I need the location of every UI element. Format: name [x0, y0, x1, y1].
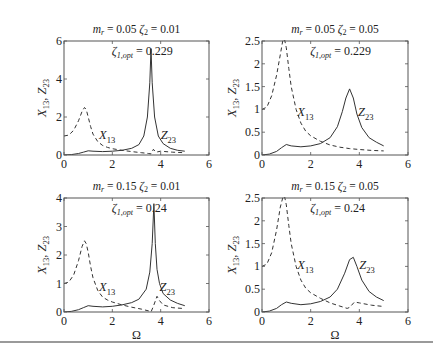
series-x13-line: [64, 241, 185, 312]
y-tick-label: 4: [56, 72, 62, 86]
x-tick-label: 2: [109, 157, 115, 171]
x-tick-label: 6: [206, 314, 212, 328]
subplot-title: mr = 0.15 ζ2 = 0.05: [291, 180, 379, 194]
y-tick-label: 0: [56, 148, 62, 162]
zeta-opt-annotation: ζ1,opt = 0.229: [310, 44, 371, 60]
zeta-opt-annotation: ζ1,opt = 0.24: [112, 201, 167, 217]
y-tick-label: 2.5: [245, 34, 260, 48]
y-tick-label: 0.5: [245, 282, 260, 296]
x13-curve-label: X13: [98, 128, 115, 145]
figure: mr = 0.05 ζ2 = 0.0102460246X13, Z23ζ1,op…: [0, 0, 433, 352]
y-tick-label: 1.5: [245, 80, 260, 94]
axes-frame: [262, 198, 408, 312]
x-tick-label: 4: [158, 314, 164, 328]
x-tick-label: 2: [109, 314, 115, 328]
y-tick-label: 0: [254, 305, 260, 319]
y-axis-label: X13, Z23: [225, 236, 241, 275]
y-tick-label: 3: [56, 220, 62, 234]
y-axis-label: X13, Z23: [35, 79, 51, 118]
x-tick-label: 2: [308, 157, 314, 171]
x-tick-label: 6: [405, 157, 411, 171]
y-tick-label: 1.5: [245, 237, 260, 251]
y-tick-label: 2: [56, 110, 62, 124]
zeta-opt-annotation: ζ1,opt = 0.229: [112, 44, 173, 60]
y-tick-label: 0: [56, 305, 62, 319]
subplot-4: mr = 0.15 ζ2 = 0.05024600.511.522.5X13, …: [225, 180, 411, 342]
y-tick-label: 2: [254, 57, 260, 71]
y-tick-label: 1: [254, 102, 260, 116]
x-tick-label: 6: [206, 157, 212, 171]
zeta-opt-annotation: ζ1,opt = 0.24: [310, 201, 365, 217]
subplot-title: mr = 0.05 ζ2 = 0.01: [93, 23, 181, 37]
y-tick-label: 1: [254, 259, 260, 273]
x13-curve-label: X13: [296, 258, 313, 275]
x-axis-label: Ω: [132, 328, 141, 342]
x-axis-label: Ω: [331, 328, 340, 342]
y-axis-label: X13, Z23: [35, 236, 51, 275]
x13-curve-label: X13: [296, 105, 313, 122]
y-tick-label: 1: [56, 277, 62, 291]
x-tick-label: 2: [308, 314, 314, 328]
y-tick-label: 0: [254, 148, 260, 162]
axes-frame: [64, 198, 209, 312]
subplot-title: mr = 0.05 ζ2 = 0.05: [291, 23, 379, 37]
axes-frame: [262, 41, 408, 155]
divider: [0, 341, 433, 343]
z23-curve-label: Z23: [359, 258, 374, 275]
x-tick-label: 4: [158, 157, 164, 171]
subplot-title: mr = 0.15 ζ2 = 0.01: [93, 180, 181, 194]
y-tick-label: 2: [56, 248, 62, 262]
z23-curve-label: Z23: [161, 128, 176, 145]
y-axis-label: X13, Z23: [225, 79, 241, 118]
subplot-1: mr = 0.05 ζ2 = 0.0102460246X13, Z23ζ1,op…: [35, 23, 212, 171]
z23-curve-label: Z23: [159, 280, 174, 297]
y-tick-label: 2: [254, 214, 260, 228]
y-tick-label: 6: [56, 34, 62, 48]
x-tick-label: 4: [356, 157, 362, 171]
y-tick-label: 2.5: [245, 191, 260, 205]
axes-frame: [64, 41, 209, 155]
subplot-3: mr = 0.15 ζ2 = 0.01024601234X13, Z23Ωζ1,…: [35, 180, 212, 342]
z23-curve-label: Z23: [358, 105, 373, 122]
x-tick-label: 4: [356, 314, 362, 328]
x-tick-label: 6: [405, 314, 411, 328]
subplot-2: mr = 0.05 ζ2 = 0.05024600.511.522.5X13, …: [225, 23, 411, 171]
y-tick-label: 4: [56, 191, 62, 205]
y-tick-label: 0.5: [245, 125, 260, 139]
